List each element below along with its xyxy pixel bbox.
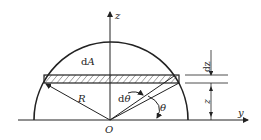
area-element-label: dA <box>81 56 95 67</box>
z-height-label: z <box>202 99 212 105</box>
y-axis-label: y <box>237 107 244 118</box>
z-axis-label: z <box>114 10 121 21</box>
hatched-strip <box>44 75 179 83</box>
theta-label: θ <box>160 102 166 113</box>
theta-arc <box>148 96 160 118</box>
dtheta-label: dθ <box>118 93 130 104</box>
radius-label: R <box>77 93 86 104</box>
hemisphere-diagram: z y O R dA dθ θ dz z <box>0 0 261 140</box>
origin-label: O <box>105 124 113 135</box>
dz-label: dz <box>202 61 212 72</box>
